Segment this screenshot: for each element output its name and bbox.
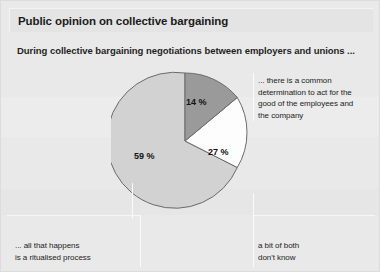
slice-label-14: 14 % [186, 97, 207, 107]
chart-subtitle: During collective bargaining negotiation… [17, 45, 355, 56]
chart-page: Public opinion on collective bargaining … [0, 0, 380, 272]
title-bar: Public opinion on collective bargaining [9, 8, 373, 32]
slice-label-27: 27 % [208, 147, 229, 157]
callout-top-right-line-4: the company [258, 110, 375, 122]
callout-top-right-line-2: determination to act for the [258, 87, 375, 99]
leader-line-bottom-left [132, 183, 133, 219]
slice-label-59: 59 % [134, 151, 155, 161]
pie-chart: 14 % 27 % 59 % ... there is a common det… [1, 63, 379, 271]
callout-top-right: ... there is a common determination to a… [253, 73, 375, 121]
callout-bottom-left-line-2: is a ritualised process [15, 252, 136, 264]
callout-bottom-right: a bit of both don't know [253, 215, 375, 267]
callout-top-right-line-1: ... there is a common [258, 75, 375, 87]
pie-svg [111, 67, 259, 215]
callout-top-right-line-3: good of the employees and [258, 98, 375, 110]
page-title: Public opinion on collective bargaining [10, 15, 228, 27]
callout-bottom-right-line-2: don't know [258, 252, 375, 264]
callout-bottom-right-line-1: a bit of both [258, 240, 375, 252]
callout-bottom-left-line-1: ... all that happens [15, 240, 136, 252]
callout-bottom-left: ... all that happens is a ritualised pro… [7, 215, 141, 267]
